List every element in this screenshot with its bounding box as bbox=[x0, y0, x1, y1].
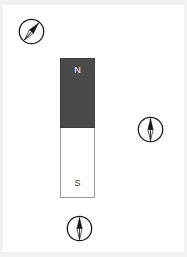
canvas-edge-left bbox=[0, 0, 3, 257]
compass-bottom bbox=[66, 215, 93, 242]
canvas-edge-right bbox=[184, 0, 187, 257]
magnet-north-label: N bbox=[74, 66, 81, 127]
magnet-south-label: S bbox=[74, 179, 80, 197]
compass-right bbox=[137, 116, 164, 143]
compass-top-left bbox=[18, 18, 45, 45]
canvas-edge-top bbox=[0, 0, 187, 5]
magnet-north-pole: N bbox=[60, 58, 95, 128]
canvas-edge-bottom bbox=[0, 252, 187, 257]
magnet-south-pole: S bbox=[60, 128, 95, 198]
bar-magnet: N S bbox=[60, 58, 95, 198]
diagram-canvas: N S bbox=[0, 0, 187, 257]
